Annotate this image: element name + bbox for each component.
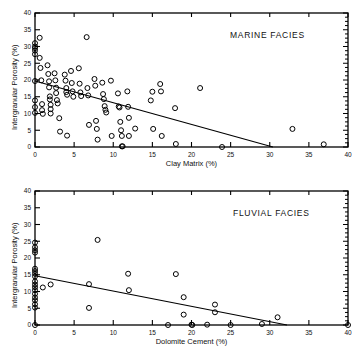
- fluvial-data-point: [95, 237, 100, 242]
- fluvial-y-tick-label: 10: [24, 288, 32, 295]
- marine-data-point: [100, 80, 105, 85]
- marine-y-tick-label: 35: [24, 26, 32, 33]
- marine-data-point: [47, 85, 52, 90]
- marine-data-point: [76, 66, 81, 71]
- marine-data-point: [109, 133, 114, 138]
- fluvial-x-axis-label: Dolomite Cement (%): [35, 337, 348, 346]
- marine-data-point: [148, 98, 153, 103]
- marine-data-point: [86, 122, 91, 127]
- marine-data-point: [77, 81, 82, 86]
- marine-data-point: [158, 82, 163, 87]
- fluvial-x-tick-label: 25: [227, 329, 235, 336]
- panel-marine-facies: 05101520253035400510152025303540 MARINE …: [0, 2, 361, 172]
- marine-data-point: [58, 129, 63, 134]
- fluvial-x-tick-label: 30: [266, 329, 274, 336]
- marine-x-tick-label: 5: [72, 151, 76, 158]
- marine-data-point: [85, 86, 90, 91]
- fluvial-data-point: [212, 302, 217, 307]
- marine-y-tick-label: 10: [24, 110, 32, 117]
- marine-data-point: [53, 78, 58, 83]
- fluvial-data-point: [181, 295, 186, 300]
- fluvial-plot-canvas: 05101520253035400510152025303540: [0, 180, 361, 350]
- fluvial-y-tick-label: 0: [27, 321, 31, 328]
- marine-data-point: [68, 68, 73, 73]
- marine-data-point: [62, 72, 67, 77]
- marine-data-point: [173, 106, 178, 111]
- fluvial-x-tick-label: 35: [305, 329, 313, 336]
- fluvial-data-point: [86, 305, 91, 310]
- fluvial-data-point: [126, 271, 131, 276]
- marine-y-tick-label: 5: [27, 127, 31, 134]
- marine-x-tick-label: 35: [305, 151, 313, 158]
- marine-data-point: [126, 115, 131, 120]
- marine-data-point: [198, 86, 203, 91]
- marine-data-point: [150, 89, 155, 94]
- marine-data-point: [290, 126, 295, 131]
- marine-data-point: [55, 101, 60, 106]
- fluvial-data-point: [275, 315, 280, 320]
- marine-data-point: [45, 63, 50, 68]
- marine-y-tick-label: 30: [24, 43, 32, 50]
- figure-scatter-pair: 05101520253035400510152025303540 MARINE …: [0, 0, 361, 357]
- marine-data-point: [108, 78, 113, 83]
- marine-data-point: [40, 102, 45, 107]
- marine-x-axis-label: Clay Matrix (%): [35, 159, 348, 168]
- marine-data-point: [69, 81, 74, 86]
- marine-y-tick-label: 15: [24, 93, 32, 100]
- marine-data-point: [94, 126, 99, 131]
- fluvial-data-point: [181, 312, 186, 317]
- marine-y-tick-label: 20: [24, 76, 32, 83]
- fluvial-regression-line: [35, 276, 287, 325]
- fluvial-x-tick-label: 10: [110, 329, 118, 336]
- fluvial-y-tick-label: 35: [24, 204, 32, 211]
- fluvial-y-tick-label: 15: [24, 271, 32, 278]
- fluvial-y-axis-label: Intergranular Porosity (%): [10, 223, 19, 308]
- fluvial-y-tick-label: 40: [24, 187, 32, 194]
- marine-plot-canvas: 05101520253035400510152025303540: [0, 2, 361, 172]
- marine-data-point: [63, 78, 68, 83]
- marine-x-tick-label: 0: [33, 151, 37, 158]
- marine-data-point: [119, 128, 124, 133]
- marine-data-point: [94, 118, 99, 123]
- marine-data-point: [321, 142, 326, 147]
- marine-data-point: [151, 126, 156, 131]
- fluvial-y-tick-label: 5: [27, 305, 31, 312]
- marine-data-point: [37, 55, 42, 60]
- marine-y-tick-label: 40: [24, 9, 32, 16]
- marine-data-point: [115, 91, 120, 96]
- marine-data-point: [52, 71, 57, 76]
- marine-data-point: [38, 65, 43, 70]
- marine-data-point: [46, 71, 51, 76]
- fluvial-facies-title: FLUVIAL FACIES: [233, 208, 310, 218]
- fluvial-data-point: [40, 285, 45, 290]
- marine-x-tick-label: 25: [227, 151, 235, 158]
- marine-data-point: [126, 133, 131, 138]
- marine-x-tick-label: 20: [188, 151, 196, 158]
- marine-y-tick-label: 25: [24, 60, 32, 67]
- marine-data-point: [173, 141, 178, 146]
- marine-data-point: [119, 133, 124, 138]
- marine-data-point: [92, 76, 97, 81]
- marine-y-axis-label: Intergranular Porosity (%): [10, 45, 19, 130]
- marine-data-point: [71, 94, 76, 99]
- fluvial-data-point: [126, 288, 131, 293]
- marine-x-tick-label: 30: [266, 151, 274, 158]
- marine-data-point: [47, 97, 52, 102]
- marine-data-point: [47, 79, 52, 84]
- marine-data-point: [93, 83, 98, 88]
- panel-fluvial-facies: 05101520253035400510152025303540 FLUVIAL…: [0, 180, 361, 350]
- fluvial-x-tick-label: 15: [149, 329, 157, 336]
- marine-data-point: [101, 92, 106, 97]
- fluvial-x-tick-label: 40: [344, 329, 352, 336]
- marine-data-point: [65, 133, 70, 138]
- marine-facies-title: MARINE FACIES: [230, 30, 305, 40]
- marine-data-point: [159, 133, 164, 138]
- marine-data-point: [37, 35, 42, 40]
- fluvial-y-tick-label: 20: [24, 254, 32, 261]
- fluvial-data-point: [48, 282, 53, 287]
- fluvial-x-tick-label: 5: [72, 329, 76, 336]
- marine-data-point: [84, 35, 89, 40]
- marine-data-point: [57, 116, 62, 121]
- fluvial-data-point: [173, 272, 178, 277]
- marine-y-tick-label: 0: [27, 143, 31, 150]
